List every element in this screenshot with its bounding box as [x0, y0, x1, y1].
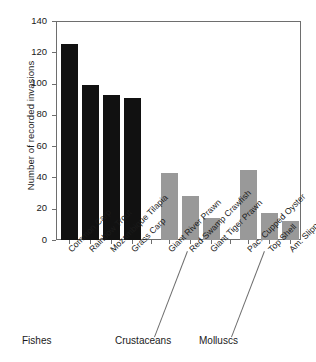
group-separator-fishes-crustaceans — [154, 251, 188, 337]
group-label-crustaceans: Crustaceans — [115, 335, 171, 346]
y-tick-label: 80 — [36, 108, 47, 119]
y-tick-label: 60 — [36, 140, 47, 151]
y-tick-label: 0 — [42, 234, 47, 245]
group-label-molluscs: Molluscs — [199, 335, 238, 346]
group-label-fishes: Fishes — [22, 335, 51, 346]
y-tick-label: 40 — [36, 171, 47, 182]
bars-layer — [56, 21, 301, 240]
x-tick-mark-group-boundary — [230, 240, 231, 244]
caption-remnant — [6, 354, 146, 359]
group-separator-crustaceans-molluscs — [231, 251, 265, 337]
y-tick-label: 120 — [31, 46, 47, 57]
bar-giant-river-prawn — [161, 173, 179, 240]
y-tick-label: 20 — [36, 202, 47, 213]
bar-common-carp — [61, 44, 79, 240]
x-tick-mark-group-boundary — [151, 240, 152, 244]
y-tick-label: 140 — [31, 15, 47, 26]
y-tick-label: 100 — [31, 77, 47, 88]
bar-chart-figure: Number of recorded invasions 02040608010… — [0, 0, 316, 362]
y-tick-mark — [52, 240, 56, 241]
